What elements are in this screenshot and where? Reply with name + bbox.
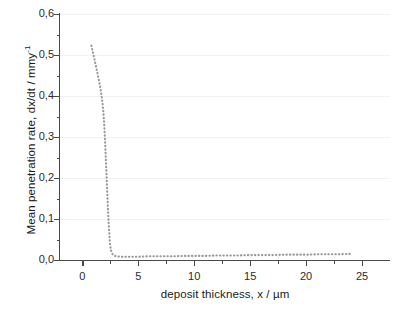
y-tick-label: 0,4 [28,89,54,101]
x-tick-label: 20 [291,270,321,282]
y-tick-label: 0,3 [28,130,54,142]
x-tick-label: 25 [347,270,377,282]
x-tick-label: 15 [235,270,265,282]
y-tick-label: 0,5 [28,48,54,60]
y-tick-label: 0,0 [28,253,54,265]
x-tick-label: 5 [123,270,153,282]
plot-area [60,14,390,260]
x-axis-tick-labels: 0510152025 [60,262,390,282]
y-tick-label: 0,2 [28,171,54,183]
series-mean-penetration-rate [60,14,390,260]
x-tick-label: 10 [179,270,209,282]
y-tick-label: 0,1 [28,212,54,224]
y-axis-line [59,13,60,261]
y-axis-tick-labels: 0,00,10,20,30,40,50,6 [26,14,54,260]
x-tick-label: 0 [67,270,97,282]
chart-figure: Mean penetration rate, dx/dt / mmy-1 dep… [0,0,399,313]
series-polyline [91,46,351,257]
x-axis-title: deposit thickness, x / µm [60,288,390,300]
y-tick-label: 0,6 [28,7,54,19]
